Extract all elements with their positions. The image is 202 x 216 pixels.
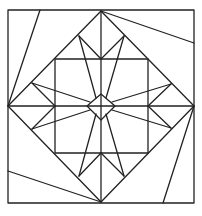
pinwheel-line bbox=[8, 10, 40, 106]
center-cross-lines bbox=[8, 11, 194, 202]
pinwheel-line bbox=[163, 106, 194, 203]
geometric-diagram bbox=[0, 0, 202, 216]
pinwheel-line bbox=[8, 171, 101, 202]
pinwheel-line bbox=[101, 11, 194, 43]
